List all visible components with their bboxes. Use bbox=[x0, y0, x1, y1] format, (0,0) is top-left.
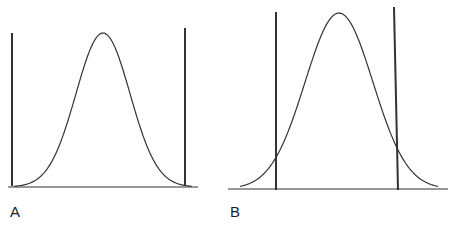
clipped-caption bbox=[6, 228, 266, 232]
panel-b-label: B bbox=[230, 204, 240, 219]
panel-a-label: A bbox=[10, 204, 20, 219]
panel-b-right-boundary-line bbox=[394, 7, 398, 190]
panel-b-bell-curve bbox=[240, 13, 438, 186]
figure-canvas bbox=[0, 0, 458, 232]
panel-b bbox=[228, 7, 448, 190]
panel-a bbox=[8, 28, 198, 187]
panel-a-bell-curve bbox=[14, 33, 192, 186]
